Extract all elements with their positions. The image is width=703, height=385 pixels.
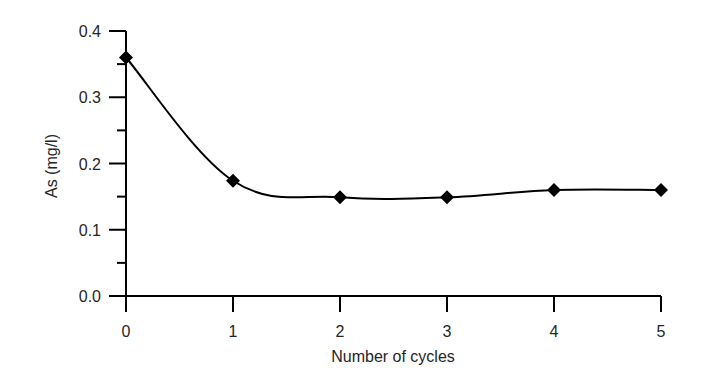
y-tick-label: 0.1 xyxy=(79,222,101,239)
data-point-marker xyxy=(333,190,347,204)
data-point-markers xyxy=(119,51,668,205)
y-axis-title: As (mg/l) xyxy=(43,134,60,198)
y-tick-label: 0.4 xyxy=(79,23,101,40)
y-tick-label: 0.3 xyxy=(79,89,101,106)
y-axis-ticks: 0.00.10.20.30.4 xyxy=(79,23,126,305)
axes xyxy=(109,31,661,312)
series-line-as xyxy=(126,58,661,199)
y-tick-label: 0.0 xyxy=(79,288,101,305)
x-axis-ticks: 012345 xyxy=(122,296,666,340)
x-tick-label: 4 xyxy=(550,323,559,340)
data-point-marker xyxy=(547,183,561,197)
data-point-marker xyxy=(440,190,454,204)
y-tick-label: 0.2 xyxy=(79,156,101,173)
data-point-marker xyxy=(654,183,668,197)
x-tick-label: 2 xyxy=(336,323,345,340)
x-tick-label: 3 xyxy=(443,323,452,340)
x-tick-label: 1 xyxy=(229,323,238,340)
chart: 0.00.10.20.30.4 012345 Number of cycles … xyxy=(0,0,703,385)
x-axis-title: Number of cycles xyxy=(331,348,455,365)
x-tick-label: 0 xyxy=(122,323,131,340)
data-point-marker xyxy=(226,174,240,188)
x-tick-label: 5 xyxy=(657,323,666,340)
